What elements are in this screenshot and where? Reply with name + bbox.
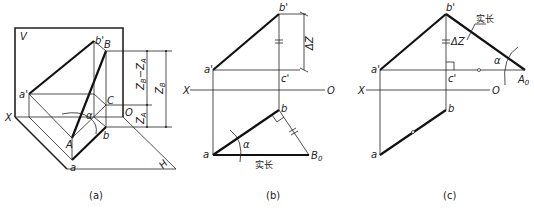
label-a-prime: a'	[19, 89, 28, 100]
projection-diagrams: V X O H a' b' B C A a b α ZB−ZA ZB ZA (a…	[0, 0, 534, 211]
label-O: O	[125, 107, 133, 118]
svg-text:ZB: ZB	[154, 82, 167, 95]
line-a-prime-b-prime	[29, 41, 94, 94]
label-B0: B0	[311, 150, 323, 163]
figure-c: b' a' c' X O b a A0 α ΔZ 实长 (c)	[357, 2, 530, 201]
label-b: b	[448, 103, 454, 114]
caption-c: (c)	[443, 190, 456, 201]
label-delta-z: ΔZ	[450, 36, 466, 47]
dim-zb: ZB	[154, 82, 167, 95]
caption-b: (b)	[266, 190, 280, 201]
label-a-prime: a'	[204, 64, 213, 75]
svg-text:ZA: ZA	[135, 112, 148, 125]
label-A0: A0	[517, 74, 530, 87]
label-c-prime: c'	[281, 73, 289, 84]
label-alpha: α	[494, 55, 501, 66]
label-V: V	[20, 31, 28, 42]
label-C: C	[107, 95, 114, 106]
dim-zb-minus-za: ZB−ZA	[135, 58, 148, 91]
line-a-prime-b-prime	[380, 14, 446, 70]
label-b: b	[281, 103, 287, 114]
caption-a: (a)	[89, 190, 103, 201]
line-a-prime-b-prime	[213, 14, 279, 70]
label-c-prime: c'	[448, 73, 456, 84]
label-a: a	[371, 149, 377, 160]
label-O: O	[492, 85, 500, 96]
label-alpha: α	[243, 139, 250, 150]
label-b-prime: b'	[95, 35, 104, 46]
label-X: X	[4, 112, 13, 123]
alpha-arc	[505, 47, 518, 85]
label-true-length: 实长	[255, 159, 273, 170]
label-a-prime: a'	[371, 64, 380, 75]
label-delta-z: ΔZ	[304, 35, 315, 51]
label-a: a	[70, 162, 76, 173]
alpha-arc	[230, 130, 241, 162]
svg-text:ZB−ZA: ZB−ZA	[135, 58, 148, 91]
label-true-length: 实长	[476, 13, 494, 24]
label-X: X	[357, 85, 366, 96]
label-a: a	[203, 149, 209, 160]
dim-za: ZA	[135, 112, 148, 125]
label-A: A	[65, 139, 73, 150]
label-b-prime: b'	[446, 2, 455, 13]
line-AB	[72, 51, 106, 138]
label-X: X	[182, 85, 191, 96]
label-alpha: α	[86, 110, 93, 121]
figure-b: b' a' c' X O b a B0 α ΔZ 实长 (b)	[182, 2, 335, 201]
label-b: b	[103, 130, 109, 141]
label-B: B	[104, 39, 111, 50]
label-b-prime: b'	[279, 2, 288, 13]
figure-a: V X O H a' b' B C A a b α ZB−ZA ZB ZA (a…	[4, 28, 176, 201]
label-O: O	[327, 85, 335, 96]
line-ab	[72, 127, 106, 160]
